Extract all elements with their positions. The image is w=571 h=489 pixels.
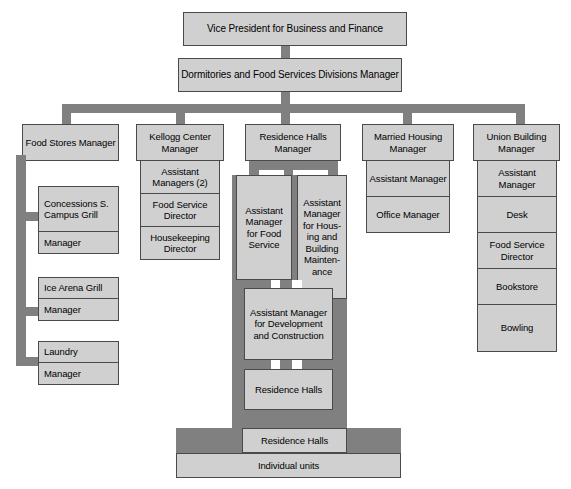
box-married-housing-assistant-manager: Assistant Manager [366,161,450,197]
box-individual-units-bar: Individual units [176,453,401,478]
assistant-housing-label: Assistant Manager for Hous- ing and Buil… [300,197,344,278]
box-union-food-service-director: Food Service Director [477,233,557,269]
connector-vp-to-division [281,46,290,58]
residence-halls-bar-plate-label: Residence Halls [261,435,328,447]
box-residence-halls-sub: Residence Halls [244,369,333,410]
ice-arena-label: Ice Arena Grill [44,282,102,294]
connector-trunk-to-kellogg [176,104,185,124]
connector-bar-wing-left [176,428,242,453]
connector-trunk-to-residence-halls [281,104,290,124]
connector-trunk-to-union-building [516,104,525,124]
kellogg-item-1-label: Food Service Director [143,199,217,222]
kellogg-item-2-label: Housekeeping Director [143,232,217,255]
connector-trunk-to-food-stores [62,104,71,124]
assistant-development-label: Assistant Manager for Development and Co… [247,307,330,342]
org-chart: Vice President for Business and Finance … [0,0,571,489]
married-housing-item-1-label: Office Manager [376,209,439,221]
concessions-manager-label: Manager [44,237,81,249]
concessions-label: Concessions S. Campus Grill [44,198,116,221]
individual-units-bar-label: Individual units [258,460,319,472]
union-item-1-label: Desk [506,209,527,221]
union-item-3-label: Bookstore [496,281,538,293]
box-assistant-manager-development: Assistant Manager for Development and Co… [244,288,333,360]
married-housing-item-0-label: Assistant Manager [370,173,447,185]
division-manager-label: Dormitories and Food Services Divisions … [181,69,399,81]
box-kellogg-housekeeping-director: Housekeeping Director [140,227,220,260]
box-assistant-manager-food-service: Assistant Manager for Food Service [236,175,292,280]
box-married-housing-office-manager: Office Manager [366,197,450,233]
connector-bar-wing-right [347,428,401,453]
connector-residence-stem-right [328,161,338,175]
connector-residence-stem-center [284,161,293,175]
box-division-manager: Dormitories and Food Services Divisions … [178,58,402,92]
box-laundry-manager: Manager [38,363,119,385]
box-food-stores-manager: Food Stores Manager [22,124,119,161]
laundry-manager-label: Manager [44,368,81,380]
box-laundry: Laundry [38,341,119,363]
box-union-bookstore: Bookstore [477,269,557,305]
connector-trunk-to-married-housing [403,104,412,124]
kellogg-item-0-label: Assistant Managers (2) [143,166,217,189]
vice-president-label: Vice President for Business and Finance [207,23,383,35]
box-vice-president: Vice President for Business and Finance [183,12,407,46]
box-union-desk: Desk [477,197,557,233]
box-kellogg-food-service-director: Food Service Director [140,194,220,227]
box-residence-halls-bar-label-plate: Residence Halls [242,428,347,453]
kellogg-header-label: Kellogg Center Manager [139,131,221,154]
ice-arena-manager-label: Manager [44,304,81,316]
connector-main-trunk [62,104,525,113]
box-residence-halls-manager: Residence Halls Manager [245,124,341,161]
residence-halls-header-label: Residence Halls Manager [248,131,338,154]
box-union-assistant-manager: Assistant Manager [477,161,557,197]
married-housing-header-label: Married Housing Manager [365,131,451,154]
box-concessions-grill: Concessions S. Campus Grill [38,186,119,232]
connector-food-stores-spine [16,155,26,366]
box-kellogg-assistant-managers: Assistant Managers (2) [140,161,220,194]
connector-residence-to-assistants [249,161,338,170]
box-union-building-manager: Union Building Manager [473,124,560,161]
box-ice-arena-grill: Ice Arena Grill [38,277,119,299]
union-item-2-label: Food Service Director [480,239,554,262]
union-building-header-label: Union Building Manager [476,131,557,154]
union-item-0-label: Assistant Manager [480,167,554,190]
assistant-food-service-label: Assistant Manager for Food Service [239,205,289,251]
box-married-housing-manager: Married Housing Manager [362,124,454,161]
box-concessions-manager: Manager [38,232,119,254]
box-union-bowling: Bowling [477,305,557,352]
union-item-4-label: Bowling [501,322,534,334]
residence-halls-sub-label: Residence Halls [255,384,322,396]
box-assistant-manager-housing-maintenance: Assistant Manager for Hous- ing and Buil… [297,175,347,299]
box-ice-arena-manager: Manager [38,299,119,321]
box-kellogg-center-manager: Kellogg Center Manager [136,124,224,161]
food-stores-header-label: Food Stores Manager [26,137,116,149]
connector-residence-stem-left [249,161,259,175]
laundry-label: Laundry [44,346,78,358]
